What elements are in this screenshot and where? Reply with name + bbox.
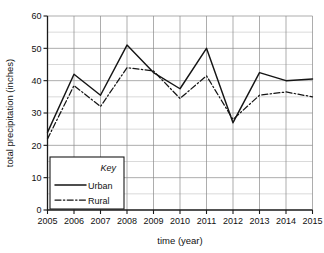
y-tick-label: 20 bbox=[31, 141, 41, 151]
y-tick-label: 60 bbox=[31, 11, 41, 21]
x-tick-label: 2014 bbox=[276, 216, 296, 226]
x-tick-label: 2013 bbox=[249, 216, 269, 226]
x-tick-label: 2005 bbox=[37, 216, 57, 226]
x-axis-tick-labels: 2005200620072008200920102011201220132014… bbox=[37, 216, 322, 226]
x-tick-label: 2015 bbox=[302, 216, 322, 226]
x-tick-label: 2009 bbox=[143, 216, 163, 226]
y-tick-label: 50 bbox=[31, 44, 41, 54]
x-tick-label: 2012 bbox=[223, 216, 243, 226]
chart-legend: Key Urban Rural bbox=[50, 157, 124, 209]
x-tick-label: 2011 bbox=[197, 216, 216, 226]
y-tick-label: 40 bbox=[31, 76, 41, 86]
x-axis-title: time (year) bbox=[157, 235, 202, 246]
x-tick-label: 2008 bbox=[117, 216, 137, 226]
chart-canvas: 0102030405060 20052006200720082009201020… bbox=[0, 0, 324, 253]
legend-title: Key bbox=[100, 163, 116, 173]
x-tick-label: 2007 bbox=[90, 216, 110, 226]
x-tick-label: 2006 bbox=[64, 216, 84, 226]
y-tick-label: 30 bbox=[31, 108, 41, 118]
legend-label-urban: Urban bbox=[88, 181, 113, 191]
legend-label-rural: Rural bbox=[88, 196, 110, 206]
y-axis-title: total precipitation (inches) bbox=[4, 59, 15, 167]
x-tick-label: 2010 bbox=[170, 216, 190, 226]
y-axis-tick-labels: 0102030405060 bbox=[31, 11, 41, 215]
y-tick-label: 0 bbox=[36, 205, 41, 215]
precipitation-line-chart: 0102030405060 20052006200720082009201020… bbox=[0, 0, 324, 253]
y-tick-label: 10 bbox=[31, 173, 41, 183]
